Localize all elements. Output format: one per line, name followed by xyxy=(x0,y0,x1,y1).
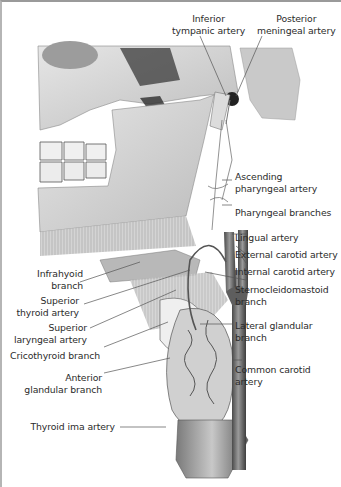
label-line: Inferior xyxy=(172,13,245,25)
label-line: branch xyxy=(37,280,83,292)
label-line: Internal carotid artery xyxy=(235,266,335,278)
label-line: Lingual artery xyxy=(235,232,299,244)
label-superior-laryngeal-artery: Superior laryngeal artery xyxy=(14,322,87,345)
label-line: meningeal artery xyxy=(257,25,336,37)
thyroid-gland xyxy=(167,308,234,430)
label-lateral-glandular-branch: Lateral glandular branch xyxy=(235,320,313,343)
label-thyroid-ima-artery: Thyroid ima artery xyxy=(30,421,115,433)
label-line: Thyroid ima artery xyxy=(30,421,115,433)
label-external-carotid-artery: External carotid artery xyxy=(235,249,338,261)
label-line: Infrahyoid xyxy=(37,268,83,280)
label-line: External carotid artery xyxy=(235,249,338,261)
label-internal-carotid-artery: Internal carotid artery xyxy=(235,266,335,278)
label-line: tympanic artery xyxy=(172,25,245,37)
label-line: Pharyngeal branches xyxy=(235,207,331,219)
label-sternocleidomastoid-branch: Sternocleidomastoid branch xyxy=(235,284,329,307)
label-line: artery xyxy=(235,376,311,388)
label-line: Superior xyxy=(14,322,87,334)
label-anterior-glandular-branch: Anterior glandular branch xyxy=(24,372,102,395)
label-line: branch xyxy=(235,296,329,308)
label-line: Cricothyroid branch xyxy=(10,350,100,362)
teeth xyxy=(40,142,106,182)
label-superior-thyroid-artery: Superior thyroid artery xyxy=(16,295,79,318)
label-line: Anterior xyxy=(24,372,102,384)
label-line: Lateral glandular xyxy=(235,320,313,332)
label-line: laryngeal artery xyxy=(14,334,87,346)
label-line: Ascending xyxy=(235,171,317,183)
label-ascending-pharyngeal-artery: Ascending pharyngeal artery xyxy=(235,171,317,194)
label-line: Common carotid xyxy=(235,364,311,376)
anatomical-illustration xyxy=(0,0,341,487)
label-pharyngeal-branches: Pharyngeal branches xyxy=(235,207,331,219)
label-line: thyroid artery xyxy=(16,307,79,319)
label-line: Superior xyxy=(16,295,79,307)
label-infrahyoid-branch: Infrahyoid branch xyxy=(37,268,83,291)
label-line: branch xyxy=(235,332,313,344)
label-line: glandular branch xyxy=(24,384,102,396)
label-lingual-artery: Lingual artery xyxy=(235,232,299,244)
label-inferior-tympanic-artery: Inferior tympanic artery xyxy=(172,13,245,36)
label-line: Posterior xyxy=(257,13,336,25)
label-posterior-meningeal-artery: Posterior meningeal artery xyxy=(257,13,336,36)
label-cricothyroid-branch: Cricothyroid branch xyxy=(10,350,100,362)
label-line: Sternocleidomastoid xyxy=(235,284,329,296)
label-line: pharyngeal artery xyxy=(235,183,317,195)
label-common-carotid-artery: Common carotid artery xyxy=(235,364,311,387)
